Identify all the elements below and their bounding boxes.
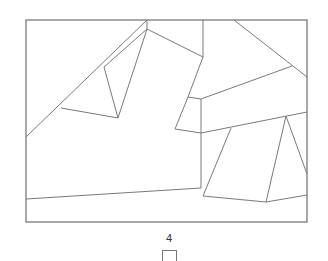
diagram-line (26, 20, 147, 137)
diagram-line (188, 97, 201, 99)
diagram-line (26, 188, 201, 199)
diagram-line (175, 129, 201, 133)
diagram-line (188, 57, 203, 97)
diagram-line (104, 67, 118, 118)
diagram-line (61, 108, 118, 118)
diagram-line (147, 29, 203, 57)
diagram-line (175, 97, 188, 129)
diagram-line (234, 20, 307, 77)
diagram-segments (26, 20, 307, 202)
diagram-line (203, 196, 266, 202)
diagram-line (203, 128, 231, 196)
diagram-line (286, 116, 307, 174)
diagram-line (201, 66, 292, 99)
page-marker-box (162, 250, 177, 261)
diagram-line (266, 195, 307, 202)
page-number: 4 (162, 232, 176, 244)
diagram-frame (26, 20, 307, 222)
diagram-line (266, 116, 286, 202)
